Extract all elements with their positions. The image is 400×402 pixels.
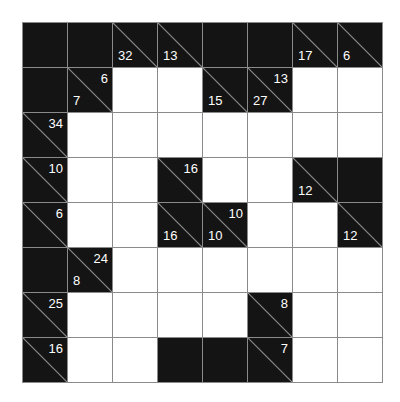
down-clue: 7 [73,94,80,108]
block-cell [248,23,292,67]
down-clue: 10 [208,229,222,243]
entry-cell[interactable] [68,158,112,202]
clue-cell: 6 [23,203,67,247]
clue-cell: 1010 [203,203,247,247]
entry-cell[interactable] [338,338,382,382]
entry-cell[interactable] [113,293,157,337]
entry-cell[interactable] [158,68,202,112]
across-clue: 16 [184,162,198,176]
clue-cell: 67 [68,68,112,112]
down-clue: 8 [73,274,80,288]
clue-cell: 17 [293,23,337,67]
entry-cell[interactable] [203,158,247,202]
clue-cell: 16 [23,338,67,382]
down-clue: 16 [163,229,177,243]
clue-cell: 1327 [248,68,292,112]
across-clue: 25 [49,297,63,311]
clue-cell: 32 [113,23,157,67]
across-clue: 8 [281,297,288,311]
block-cell [68,23,112,67]
entry-cell[interactable] [203,113,247,157]
across-clue: 7 [281,342,288,356]
entry-cell[interactable] [68,203,112,247]
down-clue: 15 [208,94,222,108]
block-cell [203,338,247,382]
entry-cell[interactable] [113,338,157,382]
entry-cell[interactable] [293,293,337,337]
across-clue: 13 [274,72,288,86]
across-clue: 34 [49,117,63,131]
down-clue: 32 [118,49,132,63]
entry-cell[interactable] [248,203,292,247]
clue-cell: 7 [248,338,292,382]
entry-cell[interactable] [248,158,292,202]
down-clue: 12 [343,229,357,243]
entry-cell[interactable] [248,248,292,292]
entry-cell[interactable] [338,113,382,157]
entry-cell[interactable] [68,293,112,337]
block-cell [23,248,67,292]
entry-cell[interactable] [338,68,382,112]
down-clue: 27 [253,94,267,108]
entry-cell[interactable] [158,113,202,157]
entry-cell[interactable] [293,203,337,247]
entry-cell[interactable] [158,248,202,292]
down-clue: 13 [163,49,177,63]
clue-cell: 25 [23,293,67,337]
entry-cell[interactable] [203,248,247,292]
entry-cell[interactable] [113,113,157,157]
entry-cell[interactable] [293,113,337,157]
across-clue: 16 [49,342,63,356]
kakuro-board: 3213176671513273410161261610101224825816… [22,22,383,383]
clue-cell: 16 [158,203,202,247]
block-cell [23,23,67,67]
entry-cell[interactable] [293,68,337,112]
entry-cell[interactable] [68,338,112,382]
entry-cell[interactable] [158,293,202,337]
entry-cell[interactable] [113,68,157,112]
entry-cell[interactable] [113,248,157,292]
entry-cell[interactable] [338,293,382,337]
across-clue: 10 [229,207,243,221]
entry-cell[interactable] [248,113,292,157]
entry-cell[interactable] [293,248,337,292]
entry-cell[interactable] [293,338,337,382]
clue-cell: 6 [338,23,382,67]
entry-cell[interactable] [338,248,382,292]
across-clue: 24 [94,252,108,266]
block-cell [23,68,67,112]
clue-cell: 8 [248,293,292,337]
down-clue: 17 [298,49,312,63]
clue-cell: 34 [23,113,67,157]
clue-cell: 13 [158,23,202,67]
clue-cell: 15 [203,68,247,112]
entry-cell[interactable] [113,203,157,247]
entry-cell[interactable] [113,158,157,202]
clue-cell: 16 [158,158,202,202]
across-clue: 10 [49,162,63,176]
clue-cell: 12 [293,158,337,202]
clue-cell: 10 [23,158,67,202]
clue-cell: 248 [68,248,112,292]
down-clue: 12 [298,184,312,198]
clue-cell: 12 [338,203,382,247]
down-clue: 6 [343,49,350,63]
block-cell [158,338,202,382]
entry-cell[interactable] [203,293,247,337]
block-cell [338,158,382,202]
entry-cell[interactable] [68,113,112,157]
across-clue: 6 [101,72,108,86]
across-clue: 6 [56,207,63,221]
block-cell [203,23,247,67]
